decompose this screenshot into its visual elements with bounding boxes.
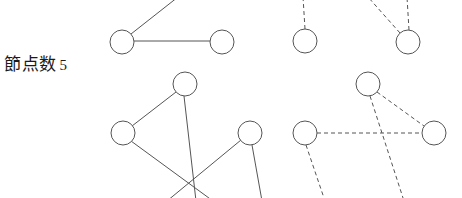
graph-figure: 節点数5 (0, 0, 462, 198)
bottom-left-solid-graph-nodes (111, 72, 262, 145)
graph-edge (303, 0, 305, 29)
graph-node (238, 121, 262, 145)
graph-edge (131, 0, 178, 34)
edges-layer (131, 0, 424, 198)
bottom-right-dashed-graph-nodes (293, 72, 446, 145)
top-left-solid-graph-edges (131, 0, 210, 41)
bottom-left-solid-graph-edges (131, 92, 262, 198)
graph-edge (132, 92, 176, 126)
graph-node (422, 121, 446, 145)
graph-edge (377, 92, 424, 126)
graph-node (111, 121, 135, 145)
graph-canvas (0, 0, 462, 198)
top-right-dashed-graph-edges (303, 0, 409, 33)
graph-edge (131, 141, 213, 198)
bottom-right-dashed-graph-edges (306, 92, 424, 198)
graph-node (293, 29, 317, 53)
graph-node (110, 30, 134, 54)
graph-edge (368, 0, 400, 33)
graph-node (396, 30, 420, 54)
graph-node (210, 30, 234, 54)
graph-edge (184, 96, 196, 198)
graph-node (173, 72, 197, 96)
graph-node (356, 72, 380, 96)
top-left-solid-graph-nodes (110, 30, 234, 54)
graph-edge (370, 96, 404, 198)
top-right-dashed-graph-nodes (293, 29, 420, 54)
graph-edge (167, 140, 241, 198)
graph-edge (306, 145, 325, 198)
graph-node (293, 121, 317, 145)
graph-edge (407, 0, 409, 30)
nodes-layer (110, 29, 446, 145)
graph-edge (252, 145, 262, 198)
